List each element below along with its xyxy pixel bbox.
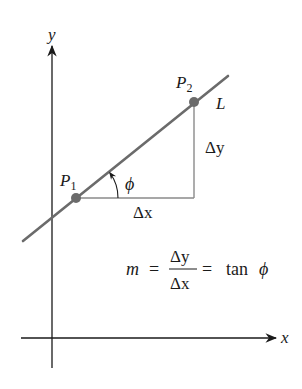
x-axis-label: x — [280, 328, 289, 347]
formula-eq1: = — [149, 259, 159, 279]
angle-label: ϕ — [125, 174, 134, 194]
formula-denominator: Δx — [170, 274, 190, 293]
formula-rhs-func: tan — [226, 259, 248, 279]
point-p1: P1 — [59, 171, 81, 203]
point-p1-dot — [71, 193, 81, 203]
formula-numerator: Δy — [170, 247, 190, 266]
slope-diagram: y x Δx Δy L ϕ P1 P2 m = Δy Δx = t — [0, 0, 302, 389]
run-label: Δx — [133, 203, 153, 222]
formula-lhs: m — [126, 259, 139, 279]
line-L-label: L — [215, 94, 225, 113]
y-axis-label: y — [46, 25, 56, 44]
point-p2: P2 — [175, 73, 199, 107]
formula-rhs-var: ϕ — [259, 259, 268, 279]
angle-arc — [110, 173, 118, 198]
angle-phi: ϕ — [110, 173, 134, 198]
rise-label: Δy — [205, 138, 225, 157]
slope-triangle: Δx Δy — [76, 102, 225, 222]
point-p1-label: P1 — [59, 171, 76, 193]
axes: y x — [21, 25, 289, 368]
formula-eq2: = — [202, 259, 212, 279]
point-p2-dot — [189, 97, 199, 107]
slope-formula: m = Δy Δx = tan ϕ — [126, 247, 268, 293]
point-p2-label: P2 — [175, 73, 192, 95]
